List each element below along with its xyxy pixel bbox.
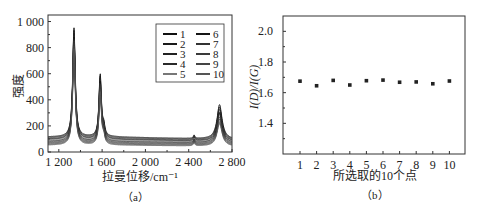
y-axis-label-a: 强度 — [11, 74, 26, 98]
y-tick-label: 1 000 — [17, 15, 44, 29]
x-tick-label-b: 1 — [297, 158, 303, 172]
data-point-10 — [448, 79, 452, 83]
y-tick-label: 200 — [26, 119, 44, 133]
y-tick-label-b: 1.4 — [258, 116, 273, 130]
y-tick-label: 400 — [26, 93, 44, 107]
x-tick-label-b: 10 — [443, 158, 455, 172]
y-tick-label: 800 — [26, 41, 44, 55]
plot-frame-b — [283, 16, 465, 154]
x-tick-label: 2 800 — [219, 155, 246, 169]
x-tick-label: 2 400 — [175, 155, 202, 169]
y-tick-label-b: 2.0 — [258, 24, 273, 38]
data-point-9 — [431, 82, 435, 86]
x-tick-label: 2 000 — [132, 155, 159, 169]
data-point-8 — [414, 80, 418, 84]
legend-label-10: 10 — [213, 68, 225, 80]
x-tick-label-b: 2 — [314, 158, 320, 172]
y-tick-label: 0 — [38, 145, 44, 159]
data-point-5 — [365, 79, 369, 83]
caption-b: （b） — [361, 186, 389, 202]
y-tick-label: 600 — [26, 67, 44, 81]
data-point-4 — [348, 83, 352, 87]
data-point-6 — [381, 78, 385, 82]
x-tick-label: 1 600 — [89, 155, 116, 169]
caption-a: （a） — [122, 188, 149, 204]
y-axis-label-b: I(D)/I(G) — [247, 65, 261, 111]
data-point-3 — [331, 79, 335, 83]
data-point-7 — [398, 80, 402, 84]
raman-spectrum-chart: 02004006008001 0001 2001 6002 0002 4002 … — [0, 0, 479, 210]
x-tick-label-b: 9 — [430, 158, 436, 172]
x-axis-label-b: 所选取的10个点 — [333, 168, 417, 183]
x-tick-label: 1 200 — [45, 155, 72, 169]
legend-label-5: 5 — [180, 68, 186, 80]
x-axis-label-a: 拉曼位移/cm⁻¹ — [102, 169, 178, 184]
data-point-1 — [298, 79, 302, 83]
data-point-2 — [315, 84, 319, 88]
